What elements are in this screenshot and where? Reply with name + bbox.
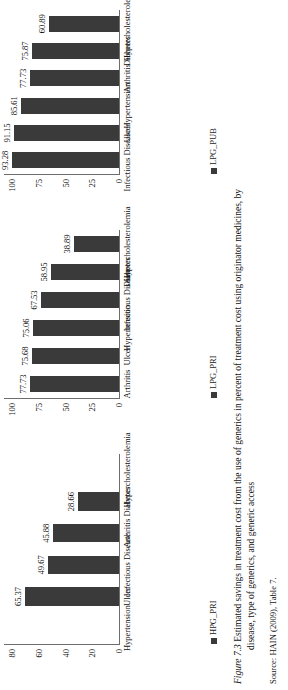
legend-label: LPG_PUB (209, 128, 218, 165)
bar-value-label: 67.53 (30, 290, 39, 309)
bar-value-label: 75.68 (21, 346, 30, 365)
y-axis-line (4, 174, 120, 175)
bars-region-hpg-pri: Hypertension 65.37 Ulcer 49.67 (4, 454, 120, 644)
figure-source: Source: HAIN (2009), Table 7. (268, 577, 278, 684)
bar: 38.89 (74, 236, 119, 252)
plot-area-lpg-pub: 0 25 50 75 100 93.28 In (4, 0, 142, 220)
y-tick: 25 (88, 176, 97, 188)
y-axis-line (4, 398, 120, 399)
y-axis-lpg-pri: 0 25 50 75 100 (4, 400, 120, 444)
bar: 75.87 (32, 43, 119, 59)
bar: 93.28 (12, 152, 119, 168)
legend-swatch-icon (211, 638, 217, 644)
bars-region-lpg-pub: 93.28 Infectious Disease 91.15 Ulcer (4, 10, 120, 174)
figure-caption: Figure 7.3 Estimated savings in treatmen… (232, 6, 257, 684)
bar-value-label: 65.37 (14, 587, 23, 606)
bar: 45.88 (53, 524, 119, 542)
bar-series-lpg-pri: 77.73 Arthritis 75.68 Ulcer (4, 230, 119, 398)
bar: 65.37 (25, 587, 119, 605)
bar: 77.73 (30, 71, 119, 87)
bar-value-label: 93.28 (1, 151, 10, 170)
bar-item: 58.95 Diabetes (4, 259, 119, 284)
figure-caption-line2: disease, type of generics, and generic a… (245, 6, 258, 650)
legend-hpg-pri: HPG_PRI (209, 601, 218, 644)
category-label: Arthritis (123, 64, 132, 93)
bar-value-label: 49.67 (37, 555, 46, 574)
bar-value-label: 91.15 (3, 123, 12, 142)
bar-item: 77.73 Arthritis (4, 66, 119, 91)
bar: 75.06 (33, 320, 119, 336)
y-tick: 25 (88, 400, 97, 412)
bar-value-label: 60.89 (38, 14, 47, 33)
chart-panel-hpg-pri: 0 20 40 60 80 Hyperten (0, 444, 222, 690)
bar-item: 75.68 Ulcer (4, 343, 119, 368)
plot-area-hpg-pri: 0 20 40 60 80 Hyperten (4, 444, 142, 690)
bar-item: 49.67 Infectious Disease (4, 551, 119, 580)
bar-value-label: 45.88 (42, 524, 51, 543)
chart-panel-lpg-pub: 0 25 50 75 100 93.28 In (0, 0, 222, 220)
bar-item: 45.88 Arthritis (4, 519, 119, 548)
legend-lpg-pub: LPG_PUB (209, 128, 218, 174)
bar-value-label: 77.73 (19, 69, 28, 88)
bar-value-label: 58.95 (40, 262, 49, 281)
bar-item: 38.89 Hypercholesterolemia (4, 231, 119, 256)
bar-value-label: 38.89 (63, 234, 72, 253)
bar: 85.61 (21, 98, 119, 114)
y-tick: 80 (8, 646, 17, 658)
y-tick: 100 (8, 400, 17, 416)
y-tick: 40 (62, 646, 71, 658)
bar: 91.15 (14, 125, 119, 141)
bar-item: 67.53 Infectious Disease (4, 287, 119, 312)
figure-number: Figure 7.3 (233, 644, 243, 684)
chart-panel-lpg-pri: 0 25 50 75 100 77.73 Ar (0, 220, 222, 444)
bar-value-label: 28.66 (67, 492, 76, 511)
bar-item: 60.89 Hypercholesterolemia (4, 11, 119, 36)
bar-series-lpg-pub: 93.28 Infectious Disease 91.15 Ulcer (4, 10, 119, 174)
bar: 49.67 (48, 556, 119, 574)
bar-item: Hypercholesterolemia (4, 456, 119, 485)
y-tick: 50 (62, 400, 71, 412)
bar-item: 91.15 Ulcer (4, 121, 119, 146)
bar-value-label: 85.61 (10, 96, 19, 115)
y-tick: 60 (35, 646, 44, 658)
y-axis-line (4, 644, 120, 645)
bar: 28.66 (78, 492, 119, 510)
y-tick: 0 (115, 400, 124, 407)
legend-swatch-icon (211, 168, 217, 174)
bar-series-hpg-pri: Hypertension 65.37 Ulcer 49.67 (4, 454, 119, 644)
figure: 0 20 40 60 80 Hyperten (0, 0, 288, 690)
bar-item: 75.06 Hypertension (4, 315, 119, 340)
figure-rotated-container: 0 20 40 60 80 Hyperten (0, 0, 288, 690)
bar-value-label: 75.87 (21, 41, 30, 60)
category-label: Arthritis (123, 370, 132, 399)
y-axis-lpg-pub: 0 25 50 75 100 (4, 176, 120, 220)
bar: 67.53 (41, 292, 119, 308)
bars-region-lpg-pri: 77.73 Arthritis 75.68 Ulcer (4, 230, 120, 398)
plot-area-lpg-pri: 0 25 50 75 100 77.73 Ar (4, 220, 142, 444)
bar-value-label: 77.73 (19, 374, 28, 393)
y-tick: 50 (62, 176, 71, 188)
bar: 77.73 (30, 376, 119, 392)
bar-item: Hypertension (4, 614, 119, 643)
legend-label: HPG_PRI (209, 601, 218, 635)
bar-item: 28.66 Diabetes (4, 487, 119, 516)
category-label: Hypertension (123, 605, 132, 651)
category-label: Arthritis (123, 519, 132, 548)
bar-item: 85.61 Hypertension (4, 93, 119, 118)
y-tick: 75 (35, 400, 44, 412)
bar-value-label: 75.06 (22, 318, 31, 337)
bar-item: 77.73 Arthritis (4, 371, 119, 396)
legend-swatch-icon (211, 392, 217, 398)
legend-lpg-pri: LPG_PRI (209, 355, 218, 398)
bar-item: 93.28 Infectious Disease (4, 148, 119, 173)
bar: 60.89 (49, 16, 119, 32)
y-axis-hpg-pri: 0 20 40 60 80 (4, 646, 120, 690)
y-tick: 75 (35, 176, 44, 188)
category-label: Hypercholesterolemia (123, 0, 132, 61)
y-tick: 100 (8, 176, 17, 192)
bar: 75.68 (32, 348, 119, 364)
figure-caption-line1: Estimated savings in treatment cost from… (233, 189, 243, 642)
bar: 58.95 (51, 264, 119, 280)
bar-item: 75.87 Diabetes (4, 39, 119, 64)
bar-item: 65.37 Ulcer (4, 582, 119, 611)
